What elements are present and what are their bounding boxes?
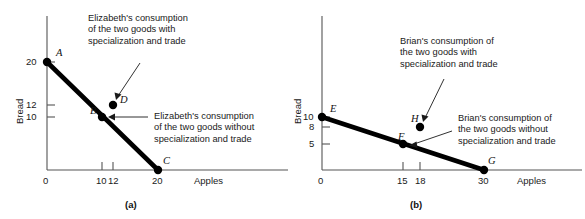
point-label-e: E xyxy=(330,103,336,114)
annotation-with-b: Brian's consumption of the two goods wit… xyxy=(400,36,498,70)
annotation-without-b-line3: specialization and trade xyxy=(458,136,556,147)
y-axis-title-b: Bread xyxy=(292,99,303,124)
panel-caption-b: (b) xyxy=(410,199,422,210)
x-axis-title-b: Apples xyxy=(517,175,546,186)
annotation-without-b-line1: Brian's consumption of xyxy=(458,113,556,124)
y-tick-label-20-a: 20 xyxy=(26,56,37,67)
annotation-with-b-line3: specialization and trade xyxy=(400,59,498,70)
point-label-a: A xyxy=(56,47,62,58)
x-tick-label-20-a: 20 xyxy=(152,175,163,186)
annotation-with-a-line3: specialization and trade xyxy=(88,36,188,47)
annotation-arrow-with-b xyxy=(425,79,444,118)
annotation-arrow-without-b xyxy=(414,131,452,144)
annotation-with-a: Elizabeth's consumption of the two goods… xyxy=(88,13,188,47)
annotation-arrowhead-with-b xyxy=(422,115,429,123)
point-label-h: H xyxy=(411,113,419,124)
panel-caption-a: (a) xyxy=(125,199,137,210)
figure-container: Bread 20 12 10 0 10 12 20 Apples A B C D… xyxy=(0,0,585,219)
annotation-without-a-line3: specialization and trade xyxy=(154,134,254,145)
chart-panel-a: Bread 20 12 10 0 10 12 20 Apples A B C D… xyxy=(0,0,292,219)
annotation-without-a-line1: Elizabeth's consumption xyxy=(154,111,254,122)
y-tick-label-10-a: 10 xyxy=(26,111,37,122)
data-point-h xyxy=(416,123,424,131)
x-tick-label-12-a: 12 xyxy=(108,175,119,186)
data-point-b xyxy=(98,113,106,121)
origin-label-a: 0 xyxy=(43,175,48,186)
x-tick-label-30-b: 30 xyxy=(478,175,489,186)
annotation-arrow-with-a xyxy=(118,63,140,96)
annotation-with-a-line1: Elizabeth's consumption xyxy=(88,13,188,24)
x-axis-title-a: Apples xyxy=(194,175,223,186)
annotation-with-b-line1: Brian's consumption of xyxy=(400,36,498,47)
point-label-c: C xyxy=(163,155,170,166)
data-point-g xyxy=(480,166,488,174)
data-point-d xyxy=(109,101,117,109)
annotation-with-b-line2: the two goods with xyxy=(400,47,498,58)
data-point-c xyxy=(154,166,162,174)
annotation-without-b-line2: the two goods without xyxy=(458,124,556,135)
data-point-a xyxy=(43,58,51,66)
chart-panel-b: Bread 10 8 5 0 15 18 30 Apples E F G H B… xyxy=(292,0,584,219)
point-label-d: D xyxy=(120,94,128,105)
x-tick-label-15-b: 15 xyxy=(397,175,408,186)
x-tick-label-18-b: 18 xyxy=(415,175,426,186)
point-label-g: G xyxy=(488,155,496,166)
y-axis-title-a: Bread xyxy=(14,99,25,124)
y-tick-label-5-b: 5 xyxy=(309,138,314,149)
annotation-without-b: Brian's consumption of the two goods wit… xyxy=(458,113,556,147)
data-point-e xyxy=(318,113,326,121)
annotation-without-a-line2: of the two goods without xyxy=(154,122,254,133)
y-tick-label-12-a: 12 xyxy=(26,99,37,110)
point-label-f: F xyxy=(398,131,404,142)
point-label-b: B xyxy=(90,105,96,116)
y-tick-label-8-b: 8 xyxy=(309,121,314,132)
annotation-without-a: Elizabeth's consumption of the two goods… xyxy=(154,111,254,145)
origin-label-b: 0 xyxy=(318,175,323,186)
annotation-with-a-line2: of the two goods with xyxy=(88,24,188,35)
x-tick-label-10-a: 10 xyxy=(96,175,107,186)
